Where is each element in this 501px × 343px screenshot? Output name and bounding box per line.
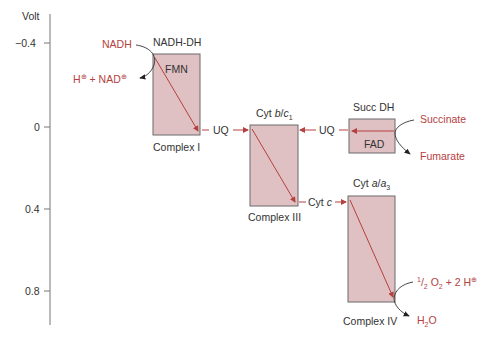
tick-label: 0.4 [25, 204, 40, 215]
cyt-bc1-label: Cyt b/c1 [256, 108, 293, 119]
diagram-canvas [0, 0, 501, 343]
fumarate-label: Fumarate [420, 151, 465, 162]
h-nad-label: H⊕ + NAD⊕ [73, 74, 127, 85]
oxygen-label: 1/2 O2 + 2 H⊕ [417, 277, 477, 288]
tick-label: 0 [34, 122, 40, 133]
succ-dh-label: Succ DH [353, 102, 394, 113]
water-label: H2O [417, 315, 437, 326]
tick-label: 0.8 [25, 286, 40, 297]
complex-i-label: Complex I [153, 142, 200, 153]
uq-label: UQ [319, 125, 335, 136]
fmn-label: FMN [165, 64, 188, 75]
complex-iv-label: Complex IV [343, 316, 397, 327]
uq-label: UQ [213, 125, 229, 136]
cyt-c-label: Cyt c [308, 197, 332, 208]
axis-title: Volt [22, 11, 40, 22]
tick-label: −0.4 [15, 38, 36, 49]
fad-label: FAD [364, 139, 384, 150]
nadh-label: NADH [102, 39, 132, 50]
voltage-axis [44, 14, 50, 325]
nadh-dh-label: NADH-DH [153, 37, 201, 48]
cyt-aa3-label: Cyt a/a3 [353, 178, 390, 189]
complex-iii-label: Complex III [248, 212, 301, 223]
succinate-label: Succinate [420, 114, 466, 125]
